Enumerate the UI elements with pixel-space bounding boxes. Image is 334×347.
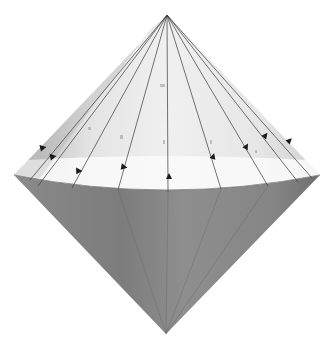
bicone-diagram bbox=[0, 0, 334, 347]
bicone-figure bbox=[0, 0, 334, 347]
